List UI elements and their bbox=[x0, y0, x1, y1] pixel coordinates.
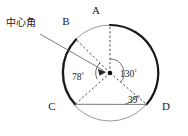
callout-label-central-angle: 中心角 bbox=[6, 16, 36, 28]
figure-canvas: A B C D 130° 78° 39° 中心角 bbox=[0, 0, 188, 136]
angle-39-unit: ° bbox=[138, 95, 141, 101]
angle-78-value: 78 bbox=[72, 72, 82, 82]
vertex-label-a: A bbox=[92, 4, 100, 16]
angle-label-78: 78° bbox=[72, 72, 85, 83]
vertex-label-c: C bbox=[48, 100, 55, 112]
angle-label-39: 39° bbox=[128, 95, 141, 106]
center-point bbox=[108, 71, 113, 76]
bold-arc-ad bbox=[110, 25, 158, 104]
angle-78-unit: ° bbox=[82, 72, 85, 78]
angle-39-value: 39 bbox=[128, 95, 138, 105]
geometry-figure: A B C D 130° 78° 39° 中心角 bbox=[0, 0, 188, 136]
vertex-label-d: D bbox=[162, 100, 170, 112]
radius-ob bbox=[76, 39, 110, 73]
angle-130-value: 130 bbox=[120, 69, 135, 79]
callout-leader-line bbox=[40, 34, 104, 71]
angle-label-130: 130° bbox=[120, 69, 137, 80]
vertex-label-b: B bbox=[62, 15, 69, 27]
angle-130-unit: ° bbox=[134, 69, 137, 75]
